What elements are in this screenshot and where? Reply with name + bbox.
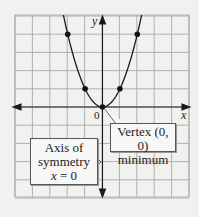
- data-point: [135, 31, 141, 37]
- y-axis-up-arrow-icon: [100, 16, 106, 24]
- vertex-callout-line2: minimum: [111, 153, 175, 167]
- origin-label: 0: [94, 109, 100, 121]
- axis-callout-equation: = 0: [57, 168, 77, 183]
- axis-callout-line3: x = 0: [31, 169, 97, 183]
- y-axis-label: y: [92, 14, 97, 29]
- data-point: [82, 86, 88, 92]
- axis-callout-line1: Axis of: [31, 141, 97, 155]
- y-axis-down-arrow-icon: [100, 189, 106, 197]
- data-point: [65, 31, 71, 37]
- vertex-callout-line1: Vertex (0, 0): [111, 125, 175, 153]
- axis-callout-line2: symmetry: [31, 155, 97, 169]
- x-axis-left-arrow-icon: [13, 104, 21, 110]
- vertex-callout-pointer: [104, 108, 126, 124]
- axis-of-symmetry-callout: Axis of symmetry x = 0: [30, 138, 98, 185]
- vertex-callout: Vertex (0, 0) minimum: [110, 123, 176, 152]
- data-point: [117, 86, 123, 92]
- x-axis-label: x: [181, 108, 186, 123]
